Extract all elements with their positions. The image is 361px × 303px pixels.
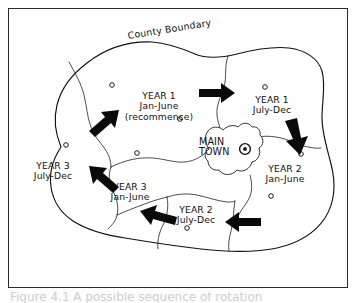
sector-line-2: July-Dec: [237, 105, 307, 115]
sector-line-2: Jan-June: [93, 192, 167, 202]
sector-label-year2-july-dec: YEAR 2 July-Dec: [159, 205, 233, 226]
figure-caption: Figure 4.1 A possible sequence of rotati…: [10, 292, 262, 303]
map-drawing: [9, 9, 348, 288]
sector-label-year1-july-dec: YEAR 1 July-Dec: [237, 95, 307, 116]
sector-label-year3-july-dec: YEAR 3 July-Dec: [15, 161, 91, 182]
map-frame: County Boundary YEAR 1 Jan-June (recomme…: [8, 8, 348, 288]
sector-line-2: Jan-June: [247, 174, 323, 184]
main-town-label: MAIN TOWN: [199, 137, 241, 158]
sector-line-2: July-Dec: [159, 215, 233, 225]
main-town-line-2: TOWN: [199, 147, 241, 157]
sector-line-2: July-Dec: [15, 171, 91, 181]
figure-caption-strip: Figure 4.1 A possible sequence of rotati…: [10, 292, 340, 303]
figure-root: Small town: [0, 0, 361, 303]
sector-line-3: (recommence): [113, 112, 205, 122]
sector-label-year2-jan-june: YEAR 2 Jan-June: [247, 164, 323, 185]
sector-label-year1-jan-june: YEAR 1 Jan-June (recommence): [113, 91, 205, 122]
sector-label-year3-jan-june: YEAR 3 Jan-June: [93, 182, 167, 203]
